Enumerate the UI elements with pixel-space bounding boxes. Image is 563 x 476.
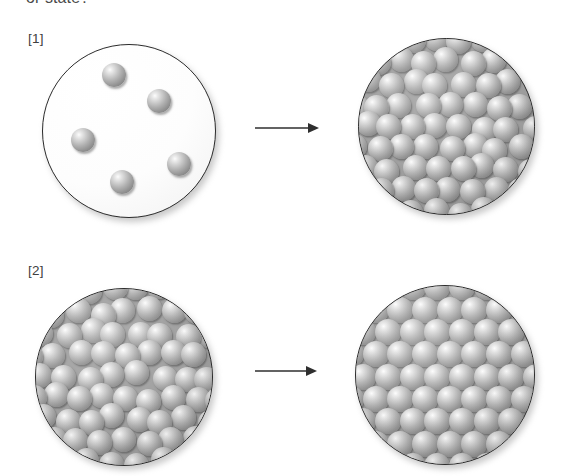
particle-sphere	[167, 152, 191, 176]
particle-sphere	[137, 296, 162, 321]
particle-sphere	[433, 47, 458, 72]
particle-sphere	[35, 404, 56, 429]
particle-sphere	[183, 426, 208, 451]
particle-sphere	[67, 386, 92, 411]
diagram-canvas: or state? [1] [2]	[0, 0, 563, 476]
particle-sphere	[398, 200, 423, 215]
particle-sphere	[389, 47, 414, 72]
particle-sphere	[110, 170, 134, 194]
particle-sphere	[147, 89, 171, 113]
particle-sphere	[508, 178, 533, 203]
sparse-particles-vessel	[42, 44, 216, 218]
particle-sphere	[181, 342, 206, 367]
step-label-2: [2]	[28, 263, 44, 278]
particle-sphere	[358, 67, 381, 92]
particle-sphere	[463, 92, 488, 117]
particle-sphere	[44, 382, 69, 407]
dense-irregular-particles-vessel	[358, 38, 535, 215]
particle-sphere	[509, 134, 534, 159]
particle-sphere	[471, 197, 496, 215]
top-caption-text: or state?	[26, 0, 89, 7]
particle-sphere	[111, 427, 136, 452]
right-arrow-icon-2	[255, 364, 317, 378]
particle-sphere	[369, 178, 394, 203]
step-label-1: [1]	[28, 31, 44, 46]
particle-sphere	[99, 452, 124, 466]
particle-sphere	[124, 360, 149, 385]
particle-sphere	[102, 63, 126, 87]
particle-sphere	[451, 156, 476, 181]
particle-sphere	[391, 176, 416, 201]
particle-sphere	[448, 203, 473, 215]
particle-sphere	[363, 431, 389, 457]
particle-sphere	[71, 128, 95, 152]
particle-sphere	[151, 447, 176, 466]
ordered-lattice-particles-vessel	[355, 285, 535, 465]
particle-sphere	[184, 299, 209, 324]
right-arrow-icon	[255, 121, 319, 135]
dense-irregular-particles-vessel-2	[35, 288, 213, 466]
